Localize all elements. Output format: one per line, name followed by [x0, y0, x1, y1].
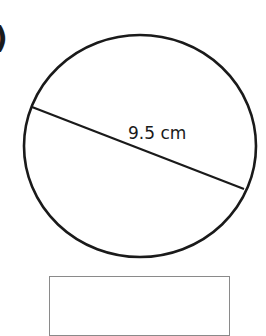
answer-box[interactable]	[49, 276, 230, 336]
diameter-label: 9.5 cm	[128, 123, 186, 143]
question-label-fragment: )	[0, 20, 8, 55]
circle-outline	[24, 35, 256, 257]
diameter-line	[32, 107, 244, 189]
